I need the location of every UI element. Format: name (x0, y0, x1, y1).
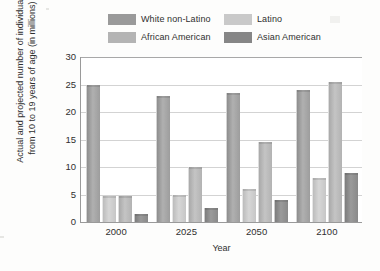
y-axis-title: Actual and projected number of individua… (15, 0, 39, 168)
x-axis-title: Year (81, 243, 362, 253)
legend-label-latino: Latino (257, 14, 282, 24)
legend-swatch-african-american (108, 32, 136, 43)
bar-groups (82, 57, 362, 222)
x-axis-ticks: 2000 2025 2050 2100 (81, 226, 362, 237)
bar-2050-latino (242, 189, 256, 222)
legend-swatch-white-non-latino (108, 14, 136, 25)
x-tick-2100: 2100 (292, 226, 362, 237)
bar-2100-white-non-latino (296, 90, 310, 222)
bar-2100-asian-american (344, 173, 358, 223)
y-tick-20: 20 (65, 107, 76, 117)
legend-label-white-non-latino: White non-Latino (141, 14, 211, 24)
bar-2025-asian-american (204, 208, 218, 222)
plot-area (80, 57, 362, 223)
bar-group-2025 (152, 57, 222, 222)
bar-2025-white-non-latino (156, 96, 170, 223)
x-tick-2050: 2050 (222, 226, 292, 237)
chart-legend: White non-Latino Latino African American… (108, 10, 340, 46)
bar-group-2000 (82, 57, 152, 222)
scan-artifact (46, 8, 49, 10)
bar-chart-figure: White non-Latino Latino African American… (0, 0, 380, 271)
legend-item-african-american: African American (108, 32, 224, 43)
scan-artifact (330, 16, 340, 23)
scan-artifact (0, 236, 4, 238)
legend-item-asian-american: Asian American (224, 32, 340, 43)
bar-2100-latino (312, 178, 326, 222)
bar-2050-asian-american (274, 200, 288, 222)
y-tick-25: 25 (65, 80, 76, 90)
y-tick-10: 10 (65, 162, 76, 172)
bar-2000-asian-american (134, 214, 148, 222)
legend-label-asian-american: Asian American (257, 32, 321, 42)
legend-swatch-asian-american (224, 32, 252, 43)
bar-2000-latino (102, 196, 116, 222)
legend-item-white-non-latino: White non-Latino (108, 14, 224, 25)
y-tick-30: 30 (65, 52, 76, 62)
bar-2100-african-american (328, 82, 342, 222)
bar-group-2050 (222, 57, 292, 222)
legend-label-african-american: African American (141, 32, 211, 42)
bar-group-2100 (292, 57, 362, 222)
legend-swatch-latino (224, 14, 252, 25)
y-axis-ticks: 30 25 20 15 10 5 0 (56, 50, 76, 230)
legend-item-latino: Latino (224, 14, 340, 25)
y-tick-15: 15 (65, 135, 76, 145)
bar-2025-african-american (188, 167, 202, 222)
bar-2000-white-non-latino (86, 85, 100, 223)
x-tick-2025: 2025 (151, 226, 221, 237)
bar-2000-african-american (118, 196, 132, 222)
bar-2050-white-non-latino (226, 93, 240, 222)
bar-2050-african-american (258, 142, 272, 222)
bar-2025-latino (172, 195, 186, 223)
x-tick-2000: 2000 (81, 226, 151, 237)
y-tick-0: 0 (71, 217, 76, 227)
y-tick-5: 5 (71, 190, 76, 200)
